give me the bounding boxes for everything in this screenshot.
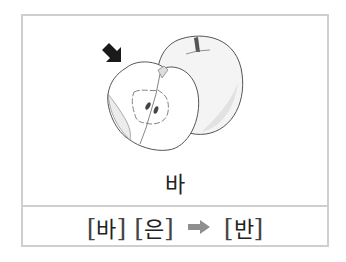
syllable-2: 은 xyxy=(144,211,164,243)
open-bracket: [ xyxy=(134,213,144,242)
word-label: 바 xyxy=(23,166,327,198)
close-bracket: ] xyxy=(116,213,126,242)
half-apple xyxy=(108,62,199,150)
result-group: [ 반 ] xyxy=(224,211,264,243)
pronunciation-rule: [ 바 ] [ 은 ] [ 반 ] xyxy=(23,207,327,247)
syllable-1-group: [ 바 ] xyxy=(87,211,127,243)
arrow-down-right-icon xyxy=(102,43,121,62)
close-bracket: ] xyxy=(164,213,174,242)
close-bracket: ] xyxy=(254,213,264,242)
syllable-1: 바 xyxy=(96,211,116,243)
apple-illustration xyxy=(98,28,248,168)
result-syllable: 반 xyxy=(234,211,254,243)
open-bracket: [ xyxy=(224,213,234,242)
vocabulary-card: 바 [ 바 ] [ 은 ] [ 반 ] xyxy=(21,14,329,247)
arrow-right-icon xyxy=(188,220,210,234)
open-bracket: [ xyxy=(87,213,97,242)
syllable-2-group: [ 은 ] xyxy=(134,211,174,243)
image-area: 바 xyxy=(23,16,327,206)
